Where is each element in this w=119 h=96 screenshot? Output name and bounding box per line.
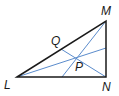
segment-m-to-ln — [62, 21, 106, 77]
segment-l-to-mn — [17, 48, 106, 77]
triangle-diagram: L M N Q P — [0, 0, 119, 96]
label-q: Q — [51, 34, 60, 48]
segment-qn — [61, 49, 106, 77]
label-n: N — [102, 80, 111, 94]
label-l: L — [4, 78, 11, 92]
label-p: P — [75, 60, 83, 74]
label-m: M — [101, 4, 111, 18]
